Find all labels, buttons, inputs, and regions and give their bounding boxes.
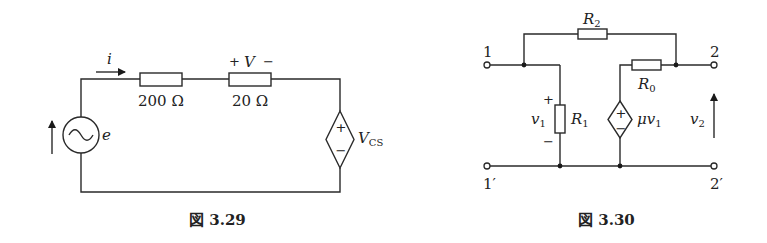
dep-plus-sign: + (336, 120, 347, 135)
r1-label: R1 (570, 110, 589, 129)
terminal-2-label: 2 (710, 43, 720, 61)
caption-3-29: 図 3.29 (189, 211, 246, 229)
mu-v1-label: μv1 (637, 110, 662, 129)
resistor-200-label: 200 Ω (138, 92, 184, 110)
wire-dep-top (620, 65, 632, 101)
resistor-r0 (632, 60, 661, 70)
r2-label: R2 (582, 10, 601, 29)
terminal-2-prime (711, 163, 717, 169)
v-plus-sign: + (229, 54, 240, 69)
wire-right-top (271, 79, 340, 111)
resistor-r1 (555, 105, 565, 133)
wire-left-top (81, 79, 140, 117)
dep-minus-sign: − (616, 121, 627, 136)
caption-3-30: 図 3.30 (578, 211, 635, 229)
junction-dot (522, 63, 527, 68)
wire-r2-left (524, 34, 578, 65)
terminal-2p-label: 2′ (710, 175, 724, 193)
figure-3-29: i 200 Ω 20 Ω + V − e + − VCS 図 3.29 (52, 50, 383, 229)
v1-plus-sign: + (543, 92, 554, 107)
junction-dot (618, 164, 623, 169)
dep-plus-sign: + (616, 106, 627, 121)
junction-dot (674, 63, 679, 68)
resistor-r2 (578, 29, 607, 39)
r0-label: R0 (637, 75, 656, 94)
v1-minus-sign: − (543, 134, 554, 149)
v-minus-sign: − (263, 54, 274, 69)
wire-bottom (81, 153, 340, 192)
vcs-label: VCS (358, 129, 383, 148)
figure-3-30: R2 R1 + v1 − R0 + − μv1 1 1′ 2 2 (483, 10, 724, 229)
resistor-20-ohm (229, 73, 271, 86)
terminal-1 (484, 62, 490, 68)
source-label: e (102, 126, 111, 144)
terminal-2 (711, 62, 717, 68)
v1-label: v1 (531, 110, 546, 129)
dep-minus-sign: − (336, 143, 347, 158)
terminal-1p-label: 1′ (483, 175, 497, 193)
terminal-1-label: 1 (483, 43, 493, 61)
resistor-200-ohm (140, 73, 182, 86)
junction-dot (558, 164, 563, 169)
resistor-20-label: 20 Ω (232, 92, 268, 110)
v2-label: v2 (690, 110, 705, 129)
circuit-figures: i 200 Ω 20 Ω + V − e + − VCS 図 3.29 R2 (0, 0, 767, 243)
terminal-1-prime (484, 163, 490, 169)
current-label: i (107, 50, 112, 68)
v-label: V (244, 53, 257, 71)
